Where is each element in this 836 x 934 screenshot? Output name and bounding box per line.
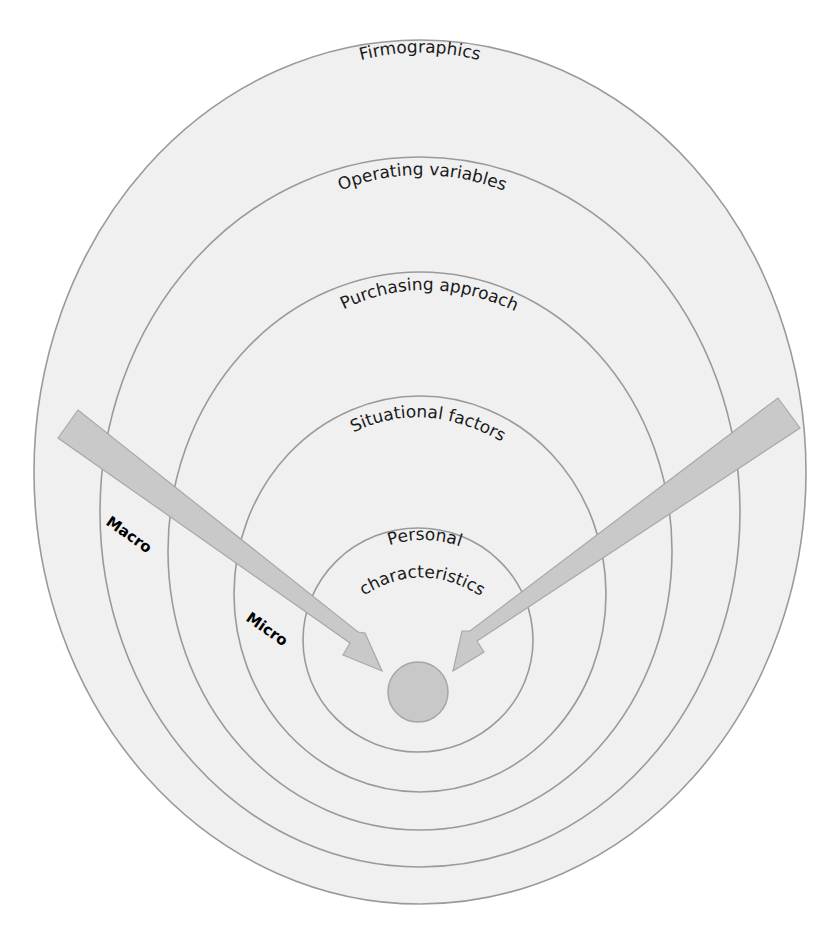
core-circle: [388, 662, 448, 722]
segmentation-diagram: Firmographics Operating variables Purcha…: [0, 0, 836, 934]
